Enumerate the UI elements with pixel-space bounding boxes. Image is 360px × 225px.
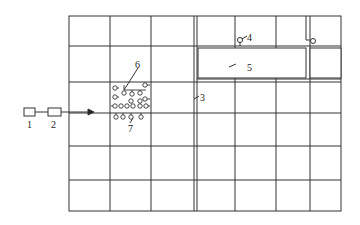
label-2: 2 <box>51 119 56 130</box>
node-cluster-6 <box>111 83 150 119</box>
label-3: 3 <box>200 92 205 103</box>
channel-5 <box>198 48 341 78</box>
grid <box>69 16 341 211</box>
label-1: 1 <box>27 119 32 130</box>
label-6: 6 <box>135 59 140 70</box>
source-chain <box>24 108 94 116</box>
diagram-canvas: 1 2 3 4 5 6 7 <box>0 0 360 225</box>
label-7: 7 <box>128 123 133 134</box>
label-4: 4 <box>247 32 252 43</box>
label-5: 5 <box>247 62 252 73</box>
